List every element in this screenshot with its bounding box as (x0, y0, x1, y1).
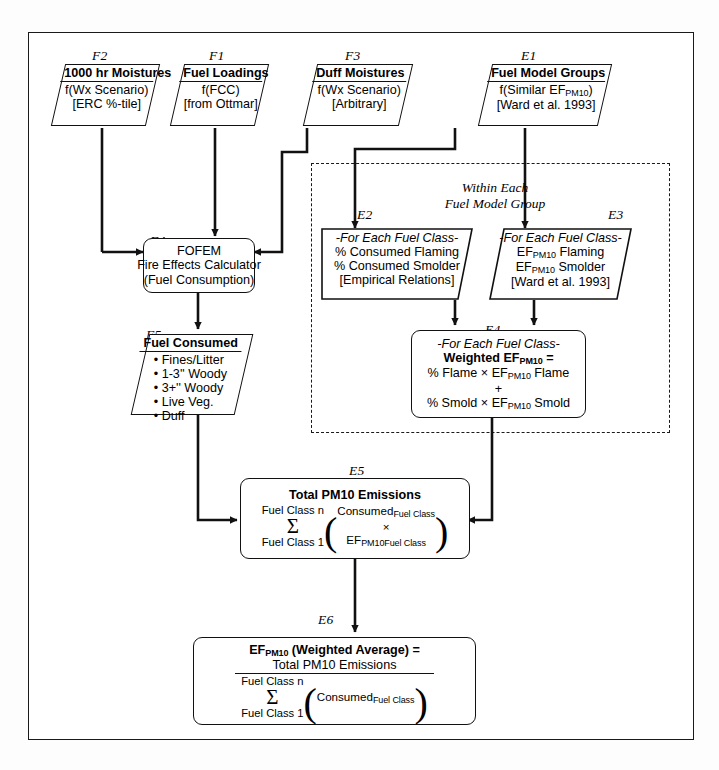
within-caption-line-1: Within Each (400, 180, 590, 196)
node-e5-header: Total PM10 Emissions (289, 488, 421, 502)
node-f2-1000hr-moistures[interactable]: 1000 hr Moistures f(Wx Scenario) [ERC %-… (51, 64, 160, 126)
node-e6-den-term-sub: Fuel Class (373, 695, 415, 705)
node-e6-summation: Fuel Class n Σ Fuel Class 1 (241, 676, 303, 719)
node-f5-fuel-consumed[interactable]: Fuel Consumed • Fines/Litter • 1-3'' Woo… (131, 334, 254, 415)
node-f5-bullet-4: • Live Veg. (154, 395, 227, 409)
node-e6-header: EFPM10 (Weighted Average) = (241, 643, 427, 658)
node-e3-line-4: [Ward et al. 1993] (495, 275, 626, 289)
node-e5-term-1-pre: Consumed (337, 504, 393, 517)
node-f2-header: 1000 hr Moistures (60, 65, 153, 82)
node-e3-line-2: EFPM10 Flaming (495, 245, 626, 260)
node-e4-weighted-ef[interactable]: -For Each Fuel Class- Weighted EFPM10 = … (411, 330, 586, 418)
node-e5-term-1-sub: Fuel Class (393, 509, 435, 519)
node-f5-bullet-1: • Fines/Litter (154, 353, 227, 367)
node-f5-bullet-2-label: 1-3'' Woody (162, 367, 227, 381)
node-f3-line-1: f(Wx Scenario) (316, 83, 402, 97)
node-e3-line-3: EFPM10 Smolder (495, 260, 626, 275)
node-e4-line-2-pre: Weighted EF (443, 351, 519, 365)
node-f1-fuel-loadings[interactable]: Fuel Loadings f(FCC) [from Ottmar] (170, 64, 269, 126)
node-f2-line-2: [ERC %-tile] (64, 97, 149, 111)
node-f5-header: Fuel Consumed (139, 335, 241, 352)
node-f3-duff-moistures[interactable]: Duff Moistures f(Wx Scenario) [Arbitrary… (303, 64, 413, 126)
node-e3-text: -For Each Fuel Class- EFPM10 Flaming EFP… (489, 228, 632, 292)
node-e1-line-1: f(Similar EFPM10) (491, 83, 601, 98)
tag-e1: E1 (521, 48, 536, 64)
node-e3-line-2-pre: EF (517, 245, 533, 259)
node-e2-line-2: % Consumed Flaming (327, 245, 467, 259)
node-e5-term-2-pre: EF (346, 533, 361, 546)
node-e6-denominator-formula: Fuel Class n Σ Fuel Class 1 ( ConsumedFu… (241, 676, 427, 719)
node-e5-total-pm10-emissions[interactable]: Total PM10 Emissions Fuel Class n Σ Fuel… (240, 478, 470, 559)
node-f1-line-1: f(FCC) (183, 83, 258, 97)
node-f3-line-2: [Arbitrary] (316, 97, 402, 111)
node-e3-line-3-post: Smolder (555, 260, 605, 274)
node-f5-bullet-3-label: 3+'' Woody (162, 381, 224, 395)
node-f5-bullet-2: • 1-3'' Woody (154, 367, 227, 381)
node-e6-numerator: Total PM10 Emissions (241, 658, 427, 672)
node-e5-formula: Fuel Class n Σ Fuel Class 1 ( ConsumedFu… (262, 504, 448, 549)
node-e6-denominator: Fuel Class n Σ Fuel Class 1 ( ConsumedFu… (235, 673, 433, 719)
node-e3-line-3-pre: EF (516, 260, 532, 274)
node-e3-line-2-post: Flaming (556, 245, 604, 259)
node-e1-line-1-sub: PM10 (565, 88, 588, 98)
node-e5-sigma: Σ (262, 517, 324, 537)
node-e1-line-1-pre: f(Similar EF (500, 83, 566, 97)
node-f5-bullets: • Fines/Litter • 1-3'' Woody • 3+'' Wood… (154, 353, 227, 423)
node-f5-bullet-5-label: Duff (162, 409, 185, 423)
node-e3-ef-pm10-factors[interactable]: -For Each Fuel Class- EFPM10 Flaming EFP… (489, 228, 632, 300)
node-f5-bullet-4-label: Live Veg. (162, 395, 214, 409)
node-e4-line-4: + (495, 382, 502, 396)
within-each-fuel-model-group-caption: Within Each Fuel Model Group (400, 180, 590, 211)
node-e4-line-5-post: Smold (531, 396, 570, 410)
node-e6-sigma: Σ (241, 688, 303, 708)
node-e5-sum-bottom: Fuel Class 1 (262, 537, 324, 548)
tag-e5: E5 (349, 463, 364, 479)
tag-f1: F1 (209, 48, 224, 64)
node-e2-percent-consumed[interactable]: -For Each Fuel Class- % Consumed Flaming… (321, 228, 473, 300)
node-e5-term-2-sub: PM10Fuel Class (361, 538, 426, 548)
node-e4-line-5-sub: PM10 (508, 401, 531, 411)
node-e4-line-3: % Flame × EFPM10 Flame (428, 366, 570, 381)
node-e4-line-2: Weighted EFPM10 = (443, 351, 553, 366)
node-e5-summation: Fuel Class n Σ Fuel Class 1 (262, 505, 324, 548)
node-e1-header: Fuel Model Groups (487, 65, 605, 82)
node-e4-line-2-sub: PM10 (520, 356, 543, 366)
node-e4-line-3-pre: % Flame × EF (428, 366, 508, 380)
node-f4-line-2: Fire Effects Calculator (137, 258, 261, 272)
node-e6-header-post: (Weighted Average) = (288, 643, 419, 657)
node-e6-weighted-average[interactable]: EFPM10 (Weighted Average) = Total PM10 E… (193, 637, 476, 725)
node-e6-header-pre: EF (249, 643, 265, 657)
node-e2-line-1: -For Each Fuel Class- (327, 231, 467, 245)
tag-e3: E3 (608, 207, 623, 223)
tag-f3: F3 (345, 48, 360, 64)
node-e6-numerator-block: EFPM10 (Weighted Average) = Total PM10 E… (235, 643, 433, 673)
node-e1-fuel-model-groups[interactable]: Fuel Model Groups f(Similar EFPM10) [War… (478, 64, 612, 126)
tag-e6: E6 (318, 612, 333, 628)
node-e1-line-1-post: ) (588, 83, 592, 97)
node-e3-line-3-sub: PM10 (532, 265, 555, 275)
tag-e2: E2 (357, 207, 372, 223)
node-e3-line-1: -For Each Fuel Class- (495, 231, 626, 245)
node-f4-line-1: FOFEM (177, 244, 221, 258)
node-e2-line-3: % Consumed Smolder (327, 259, 467, 273)
node-e5-product-term: ConsumedFuel Class × EFPM10Fuel Class (337, 504, 435, 549)
node-e1-line-2: [Ward et al. 1993] (491, 98, 601, 112)
node-e5-term-op: × (337, 520, 435, 534)
node-f4-fofem[interactable]: FOFEM Fire Effects Calculator (Fuel Cons… (143, 238, 255, 293)
node-f4-line-3: (Fuel Consumption) (144, 273, 255, 287)
node-e6-sum-bottom: Fuel Class 1 (241, 708, 303, 719)
node-f5-bullet-3: • 3+'' Woody (154, 381, 227, 395)
node-e4-line-5: % Smold × EFPM10 Smold (427, 396, 570, 411)
node-f3-header: Duff Moistures (312, 65, 406, 82)
node-e4-line-5-pre: % Smold × EF (427, 396, 508, 410)
node-f1-header: Fuel Loadings (179, 65, 262, 82)
node-e2-text: -For Each Fuel Class- % Consumed Flaming… (321, 228, 473, 290)
node-e3-line-2-sub: PM10 (533, 250, 556, 260)
within-caption-line-2: Fuel Model Group (400, 196, 590, 212)
node-e4-line-1: -For Each Fuel Class- (437, 337, 559, 351)
node-e6-fraction: EFPM10 (Weighted Average) = Total PM10 E… (235, 643, 433, 719)
node-f2-line-1: f(Wx Scenario) (64, 83, 149, 97)
node-e5-term-1: ConsumedFuel Class (337, 504, 435, 520)
node-e6-den-term-pre: Consumed (317, 690, 373, 703)
diagram-canvas: F2 F1 F3 E1 F4 F5 E2 E3 E4 E5 E6 Within … (0, 0, 719, 770)
